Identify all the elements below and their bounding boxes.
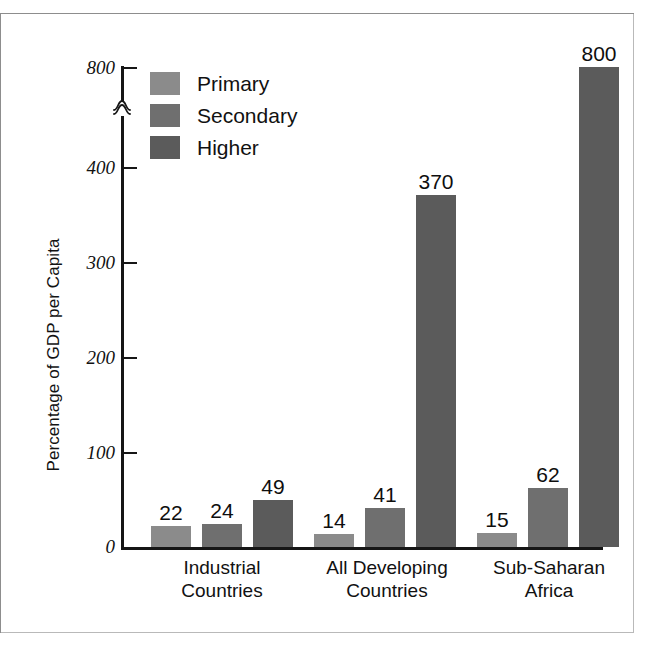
- bar-sub-saharan-secondary[interactable]: 62: [528, 488, 568, 547]
- bar-value-sub-saharan-higher: 800: [581, 43, 616, 64]
- bar-value-all-developing-secondary: 41: [373, 484, 396, 505]
- x-category-label-sub-saharan-line1: Sub-Saharan: [468, 556, 630, 579]
- bars-layer: 22 24 49 14 41 370 15 62: [0, 0, 646, 548]
- bar-value-all-developing-higher: 370: [418, 171, 453, 192]
- bar-industrial-secondary[interactable]: 24: [202, 524, 242, 547]
- bar-industrial-higher[interactable]: 49: [253, 500, 293, 547]
- bar-value-sub-saharan-primary: 15: [485, 509, 508, 530]
- figure-container: 800 400 300 200 100 0 Percentage of GDP …: [0, 0, 646, 654]
- x-category-label-sub-saharan-line2: Africa: [468, 579, 630, 602]
- x-category-label-all-developing-line1: All Developing: [299, 556, 475, 579]
- bar-value-all-developing-primary: 14: [322, 510, 345, 531]
- x-category-label-industrial: Industrial Countries: [142, 556, 302, 602]
- bar-value-industrial-higher: 49: [261, 476, 284, 497]
- bar-value-industrial-primary: 22: [159, 502, 182, 523]
- bar-value-industrial-secondary: 24: [210, 500, 233, 521]
- x-category-label-all-developing: All Developing Countries: [299, 556, 475, 602]
- bar-all-developing-secondary[interactable]: 41: [365, 508, 405, 547]
- bar-industrial-primary[interactable]: 22: [151, 526, 191, 547]
- x-category-label-industrial-line2: Countries: [142, 579, 302, 602]
- bar-sub-saharan-primary[interactable]: 15: [477, 533, 517, 547]
- bar-sub-saharan-higher[interactable]: 800: [579, 67, 619, 547]
- bar-chart-plot: 800 400 300 200 100 0 Percentage of GDP …: [0, 0, 646, 654]
- x-category-label-all-developing-line2: Countries: [299, 579, 475, 602]
- bar-all-developing-higher[interactable]: 370: [416, 195, 456, 547]
- x-category-label-industrial-line1: Industrial: [142, 556, 302, 579]
- bar-value-sub-saharan-secondary: 62: [536, 464, 559, 485]
- bar-all-developing-primary[interactable]: 14: [314, 534, 354, 547]
- x-category-label-sub-saharan: Sub-Saharan Africa: [468, 556, 630, 602]
